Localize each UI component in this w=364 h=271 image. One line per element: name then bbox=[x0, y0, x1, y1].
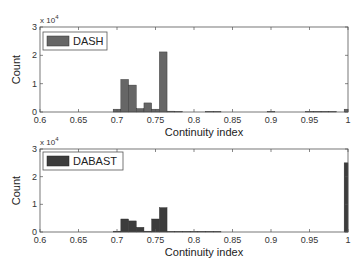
dabast-legend-label: DABAST bbox=[73, 155, 117, 167]
y-tick-label: 1 bbox=[32, 79, 37, 89]
dash-y-multiplier: x 104 bbox=[40, 14, 59, 25]
histogram-bar bbox=[344, 163, 348, 232]
y-tick-label: 3 bbox=[32, 22, 37, 32]
histogram-bar bbox=[129, 221, 137, 232]
x-tick-label: 0.65 bbox=[70, 235, 88, 245]
y-tick-label: 1 bbox=[32, 199, 37, 209]
x-tick-label: 0.65 bbox=[70, 115, 88, 125]
x-tick-label: 0.9 bbox=[265, 115, 278, 125]
dash-x-axis-label: Continuity index bbox=[165, 126, 244, 138]
dabast-y-axis-label: Count bbox=[10, 176, 22, 205]
dabast-histogram-panel: 0.60.650.70.750.80.850.90.9510123 x 104 … bbox=[10, 136, 351, 258]
histogram-bar bbox=[159, 52, 167, 112]
histogram-bar bbox=[144, 103, 152, 112]
x-tick-label: 0.75 bbox=[147, 115, 165, 125]
x-tick-label: 0.85 bbox=[224, 115, 242, 125]
x-tick-label: 0.7 bbox=[111, 115, 124, 125]
histogram-bar bbox=[344, 109, 348, 112]
x-tick-label: 0.8 bbox=[188, 115, 201, 125]
histogram-bar bbox=[129, 85, 137, 112]
y-tick-label: 2 bbox=[32, 172, 37, 182]
dabast-legend-swatch bbox=[47, 156, 69, 166]
dabast-bars bbox=[113, 163, 348, 232]
x-tick-label: 0.85 bbox=[224, 235, 242, 245]
histogram-bar bbox=[121, 219, 129, 232]
x-tick-label: 0.95 bbox=[301, 235, 319, 245]
dabast-legend: DABAST bbox=[43, 152, 123, 170]
histogram-bar bbox=[159, 208, 167, 232]
x-tick-label: 0.8 bbox=[188, 235, 201, 245]
x-tick-label: 0.7 bbox=[111, 235, 124, 245]
histogram-bar bbox=[136, 109, 144, 112]
dabast-y-multiplier: x 104 bbox=[40, 136, 59, 147]
x-tick-label: 0.9 bbox=[265, 235, 278, 245]
dash-bars bbox=[113, 52, 348, 112]
histogram-bar bbox=[136, 227, 144, 232]
x-tick-label: 1 bbox=[345, 235, 350, 245]
dabast-x-axis-label: Continuity index bbox=[165, 246, 244, 258]
x-tick-label: 0.75 bbox=[147, 235, 165, 245]
dash-legend-label: DASH bbox=[73, 35, 104, 47]
y-tick-label: 0 bbox=[32, 107, 37, 117]
dash-histogram-panel: 0.60.650.70.750.80.850.90.9510123 x 104 … bbox=[10, 14, 351, 138]
dash-y-axis-label: Count bbox=[10, 55, 22, 84]
x-tick-label: 1 bbox=[345, 115, 350, 125]
histogram-figure: 0.60.650.70.750.80.850.90.9510123 x 104 … bbox=[0, 0, 364, 271]
x-tick-label: 0.95 bbox=[301, 115, 319, 125]
y-tick-label: 3 bbox=[32, 144, 37, 154]
y-tick-label: 2 bbox=[32, 50, 37, 60]
histogram-bar bbox=[121, 79, 129, 112]
dash-legend-swatch bbox=[47, 36, 69, 46]
y-tick-label: 0 bbox=[32, 227, 37, 237]
dash-legend: DASH bbox=[43, 32, 107, 50]
